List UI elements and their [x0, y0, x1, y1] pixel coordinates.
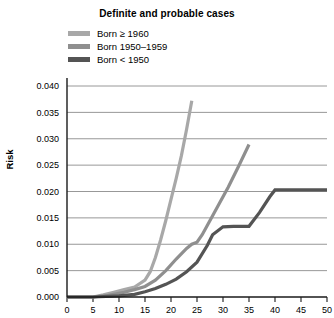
x-tick-label: 45 [296, 305, 306, 315]
x-tick-label: 15 [140, 305, 150, 315]
plot-area: 0.0000.0050.0100.0150.0200.0250.0300.035… [0, 0, 334, 318]
x-tick-label: 0 [64, 305, 69, 315]
y-tick-label: 0.015 [36, 213, 59, 223]
x-tick-label: 50 [322, 305, 332, 315]
y-tick-label: 0.025 [36, 160, 59, 170]
x-tick-label: 20 [166, 305, 176, 315]
x-tick-label: 40 [270, 305, 280, 315]
y-tick-label: 0.030 [36, 134, 59, 144]
y-tick-label: 0.040 [36, 81, 59, 91]
y-tick-label: 0.035 [36, 108, 59, 118]
series-line-0 [67, 101, 192, 297]
x-tick-labels-group: 05101520253035404550 [64, 305, 332, 315]
data-series-group [67, 101, 327, 297]
x-tick-label: 30 [218, 305, 228, 315]
y-tick-label: 0.020 [36, 187, 59, 197]
series-line-1 [67, 145, 249, 297]
x-tick-label: 5 [90, 305, 95, 315]
y-tick-label: 0.010 [36, 239, 59, 249]
x-tick-label: 35 [244, 305, 254, 315]
y-tick-labels-group: 0.0000.0050.0100.0150.0200.0250.0300.035… [36, 81, 59, 302]
y-tick-label: 0.005 [36, 266, 59, 276]
y-tick-label: 0.000 [36, 292, 59, 302]
x-tick-label: 25 [192, 305, 202, 315]
chart-container: Definite and probable cases Born ≥ 1960 … [0, 0, 334, 318]
x-tick-label: 10 [114, 305, 124, 315]
